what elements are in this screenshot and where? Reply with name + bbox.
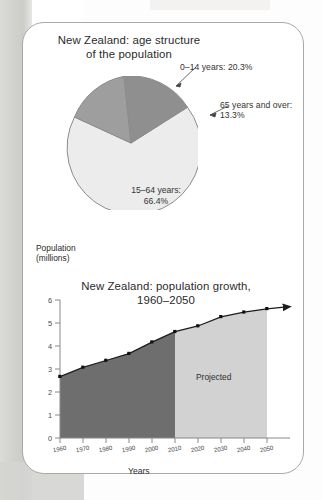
svg-text:1980: 1980 <box>98 444 113 454</box>
pie-label-0-14: 0–14 years: 20.3% <box>180 62 253 72</box>
svg-text:2030: 2030 <box>213 444 228 454</box>
svg-text:2000: 2000 <box>144 444 159 454</box>
svg-text:5: 5 <box>48 319 52 328</box>
svg-text:2050: 2050 <box>259 444 274 454</box>
svg-text:2010: 2010 <box>167 444 182 454</box>
population-growth-chart: 6 5 4 3 2 1 0 1960 1970 1980 1990 2000 2… <box>28 288 310 468</box>
svg-text:2020: 2020 <box>190 444 205 454</box>
area-actual <box>60 332 175 438</box>
pie-label-15-64-line1: 15–64 years: <box>104 185 208 196</box>
svg-text:1970: 1970 <box>75 444 90 454</box>
pie-label-15-64-line2: 66.4% <box>104 196 208 207</box>
pie-chart-title-line2: of the population <box>34 47 224 61</box>
scan-artifact <box>150 0 270 10</box>
svg-text:1960: 1960 <box>52 444 67 454</box>
svg-text:2040: 2040 <box>236 444 251 454</box>
pie-chart-title: New Zealand: age structure of the popula… <box>34 33 224 61</box>
pie-label-65-over-line2: 13.3% <box>220 110 292 120</box>
svg-text:1990: 1990 <box>121 444 136 454</box>
x-axis-title: Years <box>128 466 150 476</box>
svg-text:0: 0 <box>48 434 52 443</box>
y-axis-ticks: 6 5 4 3 2 1 0 <box>48 296 60 443</box>
pie-chart-title-line1: New Zealand: age structure <box>34 33 224 47</box>
pie-label-15-64: 15–64 years: 66.4% <box>104 185 208 206</box>
svg-text:3: 3 <box>48 365 52 374</box>
svg-text:6: 6 <box>48 296 52 305</box>
svg-text:2: 2 <box>48 388 52 397</box>
y-axis-caption-line1: Population <box>36 243 76 253</box>
svg-text:1: 1 <box>48 411 52 420</box>
pie-label-65-over-line1: 65 years and over: <box>220 100 292 110</box>
y-axis-caption-line2: (millions) <box>36 253 76 263</box>
pie-label-65-over: 65 years and over: 13.3% <box>220 100 292 121</box>
y-axis-caption: Population (millions) <box>36 243 76 264</box>
x-axis-ticks: 1960 1970 1980 1990 2000 2010 2020 2030 … <box>52 438 274 453</box>
projected-region-label: Projected <box>196 372 231 382</box>
svg-text:4: 4 <box>48 342 52 351</box>
